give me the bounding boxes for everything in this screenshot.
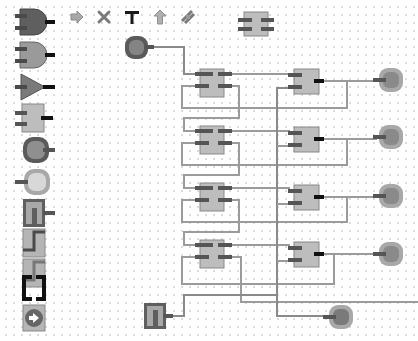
wires-layer [0,0,418,341]
clock-input[interactable] [143,302,175,334]
custom-gate-icon [286,68,326,96]
clock-icon [143,302,175,330]
custom-gate-icon [286,184,326,212]
custom-gate-icon [194,68,234,98]
splitter-4[interactable] [194,239,234,273]
led-icon [372,241,406,267]
custom-gate-icon [286,126,326,154]
output-led-4[interactable] [372,241,406,271]
gate-4[interactable] [286,241,326,273]
custom-gate-icon [194,239,234,269]
gate-2[interactable] [286,126,326,158]
led-icon [372,67,406,93]
led-icon [372,183,406,209]
output-led-2[interactable] [372,124,406,154]
gate-1[interactable] [286,68,326,100]
led-icon [372,124,406,150]
custom-gate-icon [194,182,234,212]
switch-icon [124,35,154,61]
custom-gate-icon [286,241,326,269]
splitter-3[interactable] [194,182,234,216]
output-led-1[interactable] [372,67,406,97]
led-icon [322,304,356,330]
gate-3[interactable] [286,184,326,216]
input-switch[interactable] [124,35,154,65]
splitter-1[interactable] [194,68,234,102]
custom-gate-icon [194,125,234,155]
output-led-3[interactable] [372,183,406,213]
output-led-5[interactable] [322,304,356,334]
splitter-2[interactable] [194,125,234,159]
